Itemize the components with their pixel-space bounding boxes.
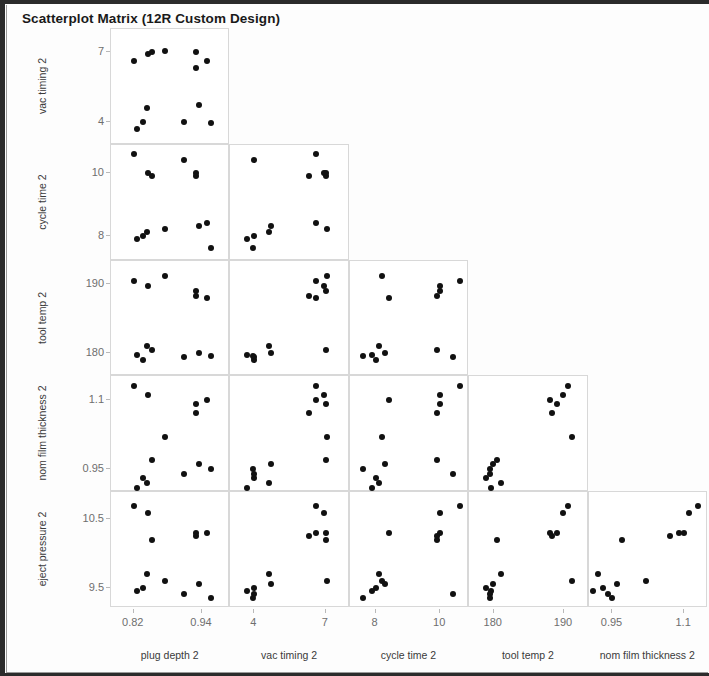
- data-point: [324, 578, 330, 584]
- data-point: [686, 510, 692, 516]
- data-point: [681, 530, 687, 536]
- scatter-panel-tool-temp-2-vs-vac-timing-2[interactable]: [229, 260, 348, 376]
- data-point: [306, 533, 312, 539]
- data-point: [181, 591, 187, 597]
- data-point: [134, 236, 140, 242]
- data-point: [266, 343, 272, 349]
- scatter-panel-cycle-time-2-vs-vac-timing-2[interactable]: [229, 144, 348, 260]
- data-point: [250, 466, 256, 472]
- scatter-panel-nom-film-thickness-2-vs-plug-depth-2[interactable]: [110, 375, 229, 491]
- data-point: [196, 581, 202, 587]
- data-point: [434, 457, 440, 463]
- column-variable-label-plug-depth-2: plug depth 2: [141, 649, 199, 661]
- y-axis-tick-label: 10.5: [52, 512, 104, 524]
- data-point: [149, 347, 155, 353]
- data-point: [268, 461, 274, 467]
- data-point: [323, 347, 329, 353]
- data-point: [324, 273, 330, 279]
- row-variable-label-cycle-time-2: cycle time 2: [36, 174, 48, 229]
- data-point: [595, 571, 601, 577]
- x-axis-tick-mark: [133, 609, 134, 613]
- y-axis-tick-label: 0.95: [52, 462, 104, 474]
- data-point: [560, 392, 566, 398]
- data-point: [134, 126, 140, 132]
- data-point: [162, 226, 168, 232]
- data-point: [373, 475, 379, 481]
- page-title: Scatterplot Matrix (12R Custom Design): [22, 11, 280, 26]
- column-variable-label-vac-timing-2: vac timing 2: [261, 649, 317, 661]
- scatter-panel-nom-film-thickness-2-vs-cycle-time-2[interactable]: [349, 375, 468, 491]
- data-point: [488, 485, 494, 491]
- data-point: [196, 223, 202, 229]
- y-axis-tick-label: 8: [52, 229, 104, 241]
- data-point: [193, 410, 199, 416]
- data-point: [323, 288, 329, 294]
- scatter-panel-eject-pressure-2-vs-tool-temp-2[interactable]: [468, 491, 587, 607]
- data-point: [569, 578, 575, 584]
- x-axis-tick-label: 7: [322, 616, 328, 628]
- data-point: [643, 578, 649, 584]
- scatter-panel-tool-temp-2-vs-cycle-time-2[interactable]: [349, 260, 468, 376]
- data-point: [437, 401, 443, 407]
- data-point: [457, 503, 463, 509]
- data-point: [494, 537, 500, 543]
- data-point: [250, 353, 256, 359]
- scatter-panel-eject-pressure-2-vs-nom-film-thickness-2[interactable]: [588, 491, 707, 607]
- data-point: [149, 537, 155, 543]
- data-point: [369, 352, 375, 358]
- x-axis-tick-label: 0.94: [190, 616, 211, 628]
- data-point: [208, 466, 214, 472]
- data-point: [268, 350, 274, 356]
- data-point: [547, 530, 553, 536]
- data-point: [695, 503, 701, 509]
- x-axis-tick-mark: [325, 609, 326, 613]
- data-point: [376, 343, 382, 349]
- scatter-panel-nom-film-thickness-2-vs-tool-temp-2[interactable]: [468, 375, 587, 491]
- data-point: [144, 105, 150, 111]
- scatter-panel-nom-film-thickness-2-vs-vac-timing-2[interactable]: [229, 375, 348, 491]
- x-axis-tick-mark: [439, 609, 440, 613]
- data-point: [204, 220, 210, 226]
- data-point: [321, 392, 327, 398]
- data-point: [144, 343, 150, 349]
- scatter-panel-vac-timing-2-vs-plug-depth-2[interactable]: [110, 28, 229, 144]
- scatter-panel-eject-pressure-2-vs-cycle-time-2[interactable]: [349, 491, 468, 607]
- data-point: [306, 410, 312, 416]
- row-variable-label-tool-temp-2: tool temp 2: [36, 292, 48, 344]
- y-axis-tick-mark: [106, 468, 110, 469]
- data-point: [208, 245, 214, 251]
- data-point: [306, 293, 312, 299]
- data-point: [196, 102, 202, 108]
- column-variable-label-tool-temp-2: tool temp 2: [502, 649, 554, 661]
- data-point: [266, 571, 272, 577]
- scatter-panel-cycle-time-2-vs-plug-depth-2[interactable]: [110, 144, 229, 260]
- data-point: [208, 120, 214, 126]
- scatter-panel-eject-pressure-2-vs-plug-depth-2[interactable]: [110, 491, 229, 607]
- data-point: [323, 537, 329, 543]
- data-point: [251, 233, 257, 239]
- x-axis-tick-label: 0.82: [122, 616, 143, 628]
- x-axis-tick-mark: [563, 609, 564, 613]
- x-axis-tick-label: 4: [250, 616, 256, 628]
- y-axis-tick-mark: [106, 172, 110, 173]
- scatter-panel-eject-pressure-2-vs-vac-timing-2[interactable]: [229, 491, 348, 607]
- data-point: [134, 352, 140, 358]
- data-point: [196, 461, 202, 467]
- x-axis-tick-label: 8: [372, 616, 378, 628]
- data-point: [149, 173, 155, 179]
- data-point: [321, 510, 327, 516]
- data-point: [386, 530, 392, 536]
- y-axis-tick-mark: [106, 587, 110, 588]
- data-point: [457, 383, 463, 389]
- scatter-panel-tool-temp-2-vs-plug-depth-2[interactable]: [110, 260, 229, 376]
- y-axis-tick-mark: [106, 518, 110, 519]
- data-point: [193, 49, 199, 55]
- data-point: [313, 295, 319, 301]
- row-variable-label-nom-film-thickness-2: nom film thickness 2: [36, 386, 48, 481]
- data-point: [162, 434, 168, 440]
- data-point: [386, 397, 392, 403]
- data-point: [208, 595, 214, 601]
- data-point: [360, 595, 366, 601]
- data-point: [360, 466, 366, 472]
- data-point: [386, 295, 392, 301]
